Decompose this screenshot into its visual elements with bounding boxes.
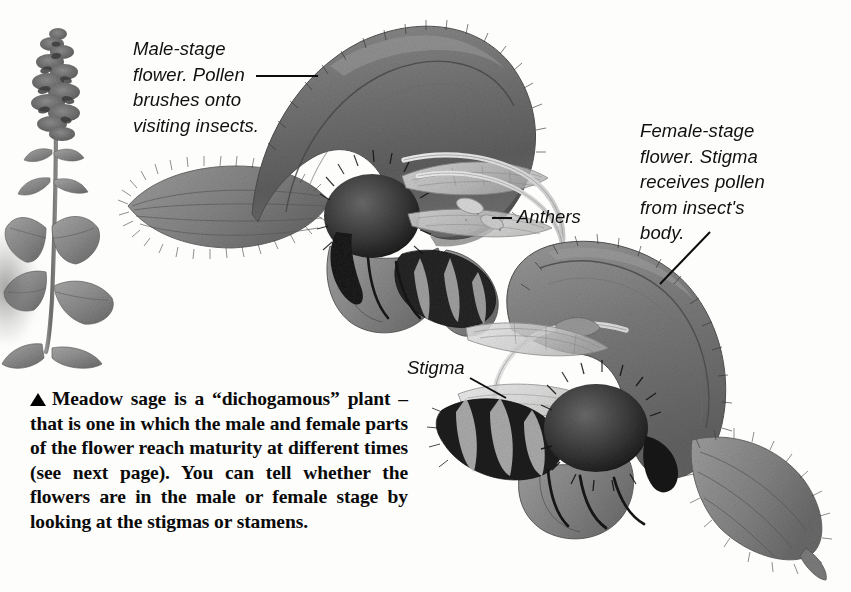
label-stigma: Stigma: [407, 357, 465, 379]
meadow-sage-plant: [2, 28, 113, 368]
caption-female-stage-flower: Female-stage flower. Stigma receives pol…: [640, 118, 840, 246]
flower-spike: [31, 28, 80, 141]
caption-male-stage-flower: Male-stage flower. Pollen brushes onto v…: [133, 36, 343, 138]
body-line-6: flowers are in the male or female stage: [30, 486, 378, 507]
stem-leaves: [18, 149, 88, 195]
female-flower-bract: [684, 428, 832, 580]
triangle-bullet-icon: [30, 393, 46, 406]
label-anthers: Anthers: [517, 206, 581, 228]
body-line-5: page). You can tell whether the: [120, 462, 408, 483]
male-flower-calyx: [118, 156, 330, 259]
page-canvas: Male-stage flower. Pollen brushes onto v…: [0, 0, 851, 592]
body-paragraph: Meadow sage is a “dichogamous” plant – t…: [30, 387, 408, 535]
body-line-1: Meadow sage is a “dichogamous”: [52, 388, 340, 409]
leader-line-anthers: [492, 217, 512, 219]
